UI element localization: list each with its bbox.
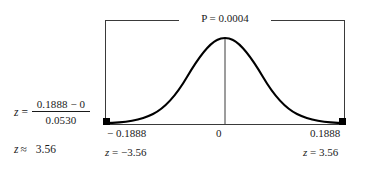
formula-denominator: 0.0530 bbox=[43, 112, 80, 126]
result-value: 3.56 bbox=[30, 143, 56, 155]
z-label-left-value: = −3.56 bbox=[109, 146, 146, 158]
formula-variable: z bbox=[14, 106, 21, 118]
right-endpoint-marker bbox=[339, 118, 346, 125]
normal-distribution-curve bbox=[105, 20, 345, 125]
p-value-text: P = 0.0004 bbox=[201, 12, 249, 24]
axis-label-left: − 0.1888 bbox=[107, 127, 146, 139]
p-value-label: P = 0.0004 bbox=[179, 12, 271, 24]
left-endpoint-marker bbox=[103, 118, 110, 125]
formula-fraction: 0.1888 − 0 0.0530 bbox=[32, 98, 90, 126]
z-score-normal-distribution-figure: z = 0.1888 − 0 0.0530 z≈3.56 P = 0.0004 … bbox=[0, 0, 369, 174]
formula-equals-sign: = bbox=[21, 106, 32, 118]
z-label-right-value: = 3.56 bbox=[307, 146, 338, 158]
formula-numerator: 0.1888 − 0 bbox=[34, 98, 88, 111]
approximately-equal-icon: ≈ bbox=[18, 143, 29, 155]
axis-label-center: 0 bbox=[216, 127, 222, 139]
z-score-result: z≈3.56 bbox=[14, 143, 56, 155]
z-label-left: z = −3.56 bbox=[105, 146, 146, 158]
z-label-right: z = 3.56 bbox=[303, 146, 338, 158]
z-score-formula: z = 0.1888 − 0 0.0530 bbox=[14, 98, 90, 126]
axis-label-right: 0.1888 bbox=[310, 127, 340, 139]
